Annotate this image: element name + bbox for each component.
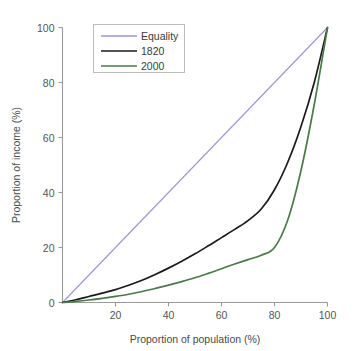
x-tick-label: 40 (163, 309, 175, 321)
y-tick-label: 60 (43, 132, 55, 144)
legend-label-1820: 1820 (141, 45, 165, 57)
y-tick-label: 40 (43, 187, 55, 199)
y-tick-label: 100 (37, 22, 55, 34)
y-tick-label: 20 (43, 242, 55, 254)
chart-canvas: 20406080100 020406080100 Proportion of p… (0, 0, 355, 351)
x-tick-label: 20 (110, 309, 122, 321)
x-tick-marks (116, 303, 328, 307)
x-tick-label: 60 (216, 309, 228, 321)
lorenz-curve-figure: 20406080100 020406080100 Proportion of p… (0, 0, 355, 351)
x-axis-title: Proportion of population (%) (130, 333, 261, 345)
y-tick-label: 80 (43, 77, 55, 89)
x-tick-labels: 20406080100 (110, 309, 337, 321)
legend-label-equality: Equality (141, 30, 179, 42)
x-tick-label: 80 (269, 309, 281, 321)
y-tick-labels: 020406080100 (37, 22, 55, 309)
y-tick-label: 0 (49, 297, 55, 309)
x-tick-label: 100 (319, 309, 337, 321)
y-tick-marks (59, 28, 63, 303)
legend-label-2000: 2000 (141, 60, 165, 72)
y-axis-title: Proportion of income (%) (10, 107, 22, 223)
legend: Equality18202000 (94, 25, 185, 73)
